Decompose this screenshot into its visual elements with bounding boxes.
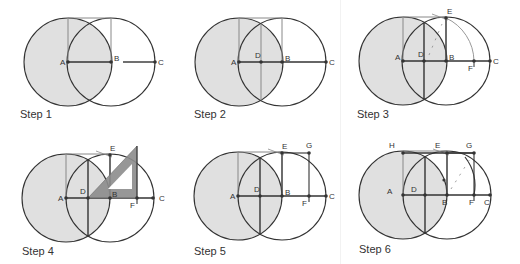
point-label-c: C xyxy=(159,194,165,203)
point-label-g: G xyxy=(306,141,312,150)
step-5-label: Step 5 xyxy=(194,245,226,257)
step-3-label: Step 3 xyxy=(357,108,389,120)
point-label-e: E xyxy=(435,141,440,150)
point-a xyxy=(401,59,405,63)
point-b xyxy=(445,193,449,197)
point-b xyxy=(444,59,448,63)
arc-g-to-f xyxy=(465,157,475,195)
point-b xyxy=(109,60,113,64)
point-c xyxy=(153,60,157,64)
point-c xyxy=(488,193,492,197)
point-label-c: C xyxy=(158,58,164,67)
point-d xyxy=(258,194,262,198)
point-label-f: F xyxy=(468,64,473,73)
point-label-b: B xyxy=(442,198,447,207)
step-2-figure: ADBC xyxy=(195,18,335,106)
step-3-figure: ADBEFC xyxy=(359,7,499,105)
step-4-label: Step 4 xyxy=(22,245,54,257)
point-label-f: F xyxy=(469,198,474,207)
point-e xyxy=(108,153,112,157)
point-h xyxy=(401,151,405,155)
point-d xyxy=(259,60,263,64)
point-a xyxy=(401,193,405,197)
point-label-e: E xyxy=(110,144,115,153)
step-6-figure: ADBFCHEG xyxy=(359,141,492,239)
point-label-d: D xyxy=(418,50,424,59)
point-label-a: A xyxy=(387,187,393,196)
point-b xyxy=(280,194,284,198)
point-d xyxy=(422,59,426,63)
point-label-b: B xyxy=(112,190,117,199)
point-f xyxy=(472,59,476,63)
point-label-d: D xyxy=(254,185,260,194)
point-label-c: C xyxy=(484,198,490,207)
point-label-e: E xyxy=(282,142,287,151)
point-g xyxy=(307,151,311,155)
construction-diagram: ABCADBCADBEFCADBEFCADBEGFCADBFCHEG xyxy=(0,0,520,264)
point-marker xyxy=(442,178,445,181)
point-label-b: B xyxy=(285,188,290,197)
point-f xyxy=(135,196,139,200)
step-1-figure: ABC xyxy=(24,18,164,106)
point-label-d: D xyxy=(255,51,261,60)
point-e xyxy=(280,151,284,155)
point-label-c: C xyxy=(493,57,499,66)
step-1-label: Step 1 xyxy=(20,108,52,120)
point-a xyxy=(66,60,70,64)
point-c xyxy=(488,59,492,63)
point-f xyxy=(307,194,311,198)
point-a xyxy=(236,194,240,198)
point-e xyxy=(445,151,449,155)
point-label-a: A xyxy=(58,194,64,203)
point-label-e: E xyxy=(447,7,452,16)
point-d xyxy=(423,193,427,197)
point-c xyxy=(324,60,328,64)
point-a xyxy=(64,196,68,200)
point-a xyxy=(237,60,241,64)
point-label-b: B xyxy=(285,54,290,63)
point-c xyxy=(324,194,328,198)
point-e xyxy=(444,16,448,20)
point-label-a: A xyxy=(395,53,401,62)
step-5-figure: ADBEGFC xyxy=(194,141,335,240)
point-b xyxy=(280,60,284,64)
point-label-d: D xyxy=(411,185,417,194)
point-label-c: C xyxy=(329,192,335,201)
point-label-h: H xyxy=(389,141,395,150)
point-label-a: A xyxy=(230,192,236,201)
point-label-f: F xyxy=(130,201,135,210)
point-label-c: C xyxy=(329,58,335,67)
step-4-figure: ADBEFC xyxy=(22,144,165,242)
point-label-f: F xyxy=(302,199,307,208)
point-g xyxy=(472,151,476,155)
point-label-d: D xyxy=(80,187,86,196)
step-2-label: Step 2 xyxy=(194,108,226,120)
dashed-diagonal xyxy=(451,159,470,189)
step-6-label: Step 6 xyxy=(359,243,391,255)
point-label-b: B xyxy=(449,53,454,62)
point-f xyxy=(472,193,476,197)
point-c xyxy=(151,196,155,200)
point-label-b: B xyxy=(114,54,119,63)
point-d xyxy=(86,196,90,200)
point-label-a: A xyxy=(60,58,66,67)
point-label-g: G xyxy=(466,141,472,150)
point-label-a: A xyxy=(231,58,237,67)
